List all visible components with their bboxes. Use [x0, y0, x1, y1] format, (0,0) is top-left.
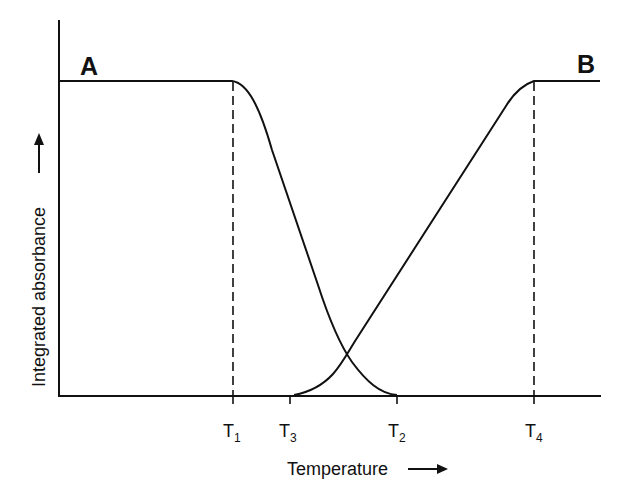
- x-axis-arrow-icon: [408, 464, 448, 474]
- tick-label-t4: T4: [525, 421, 543, 445]
- tick-label-t1: T1: [223, 421, 241, 445]
- tick-label-t3: T3: [279, 421, 297, 445]
- x-axis-label: Temperature: [287, 459, 388, 479]
- absorbance-temperature-chart: A B T1 T3 T2 T4 Temperature Integrated a…: [0, 0, 629, 502]
- y-axis-label: Integrated absorbance: [29, 207, 49, 387]
- y-axis-arrow-icon: [34, 133, 44, 173]
- label-a: A: [80, 52, 98, 80]
- label-b: B: [577, 50, 595, 78]
- tick-label-t2: T2: [388, 421, 406, 445]
- curve-b: [294, 81, 600, 395]
- curve-a: [59, 81, 397, 395]
